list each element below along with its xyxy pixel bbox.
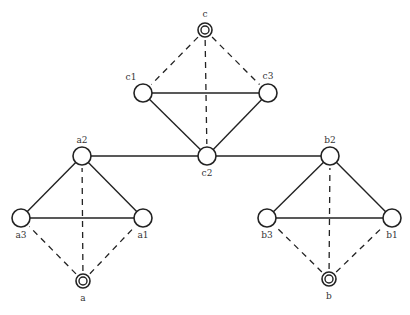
node-b (322, 272, 336, 286)
node-c (198, 23, 212, 37)
node-label-c: c (202, 9, 207, 19)
edge-b-b1 (336, 226, 383, 272)
node-label-c1: c1 (126, 72, 137, 82)
node-label-b1: b1 (386, 230, 398, 240)
node-a (76, 274, 90, 288)
node-a2 (73, 147, 91, 165)
node-c1 (134, 84, 152, 102)
node-b1 (383, 209, 401, 227)
node-a1 (134, 209, 152, 227)
node-circle-icon (134, 84, 152, 102)
node-circle-icon (12, 209, 30, 227)
node-circle-icon (198, 147, 216, 165)
node-label-c2: c2 (202, 168, 213, 178)
node-a3 (12, 209, 30, 227)
node-inner-ring-icon (325, 275, 333, 283)
node-label-c3: c3 (263, 71, 274, 81)
edge-a2-a3 (27, 162, 75, 211)
node-circle-icon (134, 209, 152, 227)
edge-b2-b1 (336, 162, 385, 211)
edge-a2-a1 (88, 162, 136, 211)
node-label-a1: a1 (137, 230, 148, 240)
node-label-a: a (80, 293, 86, 303)
node-label-b2: b2 (324, 135, 336, 145)
node-circle-icon (383, 209, 401, 227)
node-inner-ring-icon (79, 277, 87, 285)
node-label-a2: a2 (76, 135, 87, 145)
edge-b2-b3 (273, 162, 323, 211)
node-b2 (321, 147, 339, 165)
graph-diagram: cc1c3c2a2a3a1ab2b3b1b (0, 0, 410, 315)
node-circle-icon (73, 147, 91, 165)
node-circle-icon (259, 84, 277, 102)
edge-a-a1 (90, 227, 135, 274)
edge-a-a2 (82, 168, 83, 271)
edge-c-c3 (212, 37, 259, 84)
nodes-layer (12, 23, 401, 288)
node-c3 (259, 84, 277, 102)
node-c2 (198, 147, 216, 165)
edge-c-c2 (205, 40, 207, 144)
edge-c-c1 (151, 37, 198, 84)
edge-b-b3 (276, 226, 322, 272)
edge-a-a3 (29, 227, 76, 274)
node-inner-ring-icon (201, 26, 209, 34)
edge-c1-c2 (149, 99, 200, 149)
node-label-b: b (326, 291, 332, 301)
node-b3 (258, 209, 276, 227)
edge-c3-c2 (213, 99, 261, 149)
node-label-a3: a3 (15, 230, 26, 240)
node-label-b3: b3 (261, 230, 273, 240)
node-circle-icon (258, 209, 276, 227)
node-circle-icon (321, 147, 339, 165)
